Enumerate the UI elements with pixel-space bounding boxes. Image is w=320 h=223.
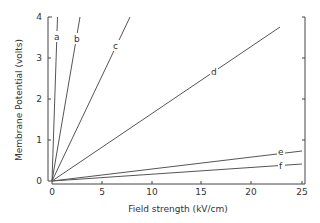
- x-tick-labels: 0 5 10 15 20 25: [49, 187, 308, 197]
- y-tick-label: 2: [36, 94, 42, 104]
- y-tick-label: 0: [36, 176, 42, 186]
- x-tick-label: 15: [195, 187, 206, 197]
- x-tick-label: 10: [146, 187, 158, 197]
- x-tick-label: 0: [49, 187, 55, 197]
- label-a: a: [54, 32, 60, 42]
- label-b: b: [74, 34, 80, 44]
- line-labels: a b c d e f: [53, 31, 285, 171]
- label-d: d: [211, 67, 217, 77]
- y-tick-label: 4: [36, 12, 42, 22]
- series-lines: [52, 17, 302, 181]
- y-tick-label: 3: [36, 53, 42, 63]
- axes: [48, 17, 305, 184]
- y-tick-label: 1: [36, 135, 42, 145]
- y-tick-labels: 0 1 2 3 4: [36, 12, 42, 186]
- x-tick-label: 5: [99, 187, 105, 197]
- y-axis-title: Membrane Potential (volts): [14, 39, 24, 161]
- chart: 0 1 2 3 4 0 5 10 15 20 25 Field strength…: [0, 0, 320, 223]
- x-axis-title: Field strength (kV/cm): [128, 204, 228, 214]
- label-e: e: [278, 147, 284, 157]
- x-tick-label: 25: [296, 187, 307, 197]
- line-f: [52, 164, 302, 181]
- x-tick-label: 20: [245, 187, 257, 197]
- label-c: c: [113, 41, 118, 51]
